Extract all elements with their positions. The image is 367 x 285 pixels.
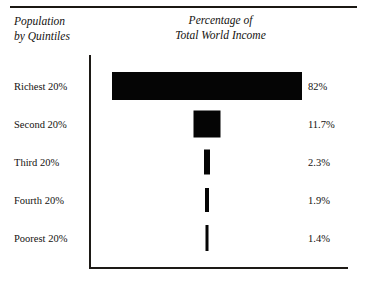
- chart-row: Poorest 20% 1.4%: [0, 219, 367, 257]
- left-column-header-line1: Population: [14, 14, 94, 29]
- bar-segment: [206, 225, 209, 251]
- bar-segment: [204, 150, 210, 175]
- value-label: 2.3%: [308, 157, 330, 168]
- x-axis-line: [89, 267, 348, 269]
- value-label: 82%: [308, 81, 327, 92]
- income-distribution-chart: Population by Quintiles Percentage of To…: [0, 0, 367, 285]
- chart-row: Fourth 20% 1.9%: [0, 181, 367, 219]
- bar-segment: [112, 72, 302, 100]
- value-label: 11.7%: [308, 119, 335, 130]
- category-label: Fourth 20%: [14, 195, 86, 206]
- bar-segment: [194, 111, 221, 138]
- chart-row: Second 20% 11.7%: [0, 105, 367, 143]
- chart-row: Third 20% 2.3%: [0, 143, 367, 181]
- value-label: 1.9%: [308, 195, 330, 206]
- category-label: Richest 20%: [14, 81, 86, 92]
- chart-title-line1: Percentage of: [128, 13, 313, 28]
- chart-row: Richest 20% 82%: [0, 67, 367, 105]
- category-label: Poorest 20%: [14, 233, 86, 244]
- category-label: Second 20%: [14, 119, 86, 130]
- value-label: 1.4%: [308, 233, 330, 244]
- bar-segment: [205, 188, 209, 212]
- chart-title: Percentage of Total World Income: [128, 13, 313, 43]
- category-label: Third 20%: [14, 157, 86, 168]
- left-column-header: Population by Quintiles: [14, 14, 94, 43]
- top-divider-rule: [10, 6, 357, 8]
- left-column-header-line2: by Quintiles: [14, 29, 94, 44]
- chart-title-line2: Total World Income: [128, 28, 313, 43]
